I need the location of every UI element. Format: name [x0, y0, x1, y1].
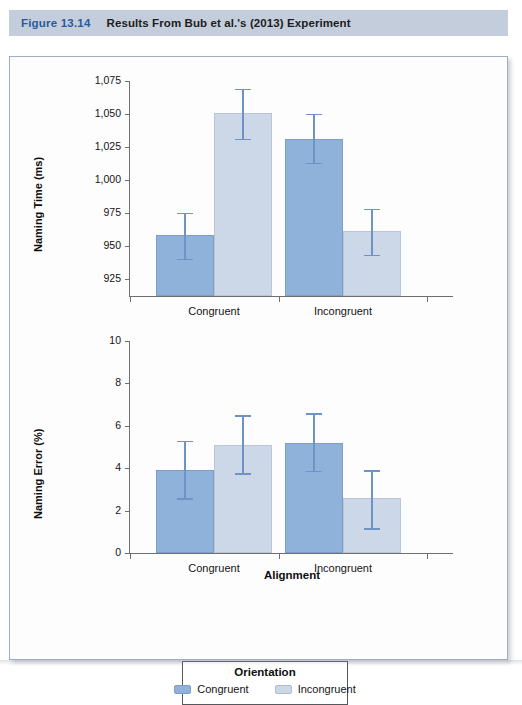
y-tick-label: 1,000: [65, 173, 121, 185]
error-cap-lower: [364, 528, 380, 530]
y-tick-label: 950: [65, 239, 121, 251]
y-axis-line-bottom: [129, 341, 130, 553]
y-tick-label: 1,075: [65, 74, 121, 86]
figure-header: Figure 13.14 Results From Bub et al.'s (…: [9, 10, 508, 36]
x-axis-line-bottom: [129, 553, 453, 554]
chart-naming-error: Naming Error (%) 0246810 CongruentIncong…: [10, 329, 509, 579]
figure-number: Figure 13.14: [21, 17, 91, 29]
error-cap-lower: [364, 255, 380, 257]
error-stem: [371, 209, 373, 256]
error-cap-lower: [177, 259, 193, 261]
error-bar-incongruent-incongruent: [364, 209, 380, 256]
legend-swatch-congruent: [174, 685, 191, 694]
x-tick-label-congruent: Congruent: [154, 305, 274, 317]
y-tick-label: 8: [65, 376, 121, 388]
x-tick-mark: [427, 297, 428, 302]
x-tick-mark: [130, 297, 131, 302]
error-cap-lower: [235, 139, 251, 141]
y-axis-title-naming-time: Naming Time (ms): [32, 157, 44, 252]
page-edge-shadow: [0, 660, 522, 665]
y-tick-label: 2: [65, 504, 121, 516]
error-bar-incongruent-congruent: [306, 413, 322, 472]
error-cap-lower: [306, 471, 322, 473]
y-axis-title-naming-error: Naming Error (%): [32, 429, 44, 519]
x-tick-mark: [279, 554, 280, 559]
legend-label-congruent: Congruent: [197, 683, 248, 695]
error-bar-congruent-congruent: [177, 441, 193, 500]
error-stem: [313, 114, 315, 164]
y-tick-label: 1,050: [65, 107, 121, 119]
error-bar-incongruent-incongruent: [364, 470, 380, 529]
legend-orientation: OrientationCongruentIncongruent: [182, 661, 348, 705]
chart-naming-time: Naming Time (ms) 9259509751,0001,0251,05…: [10, 57, 509, 317]
error-bar-congruent-incongruent: [235, 89, 251, 140]
error-stem: [313, 413, 315, 472]
legend-item-congruent: Congruent: [174, 683, 248, 695]
error-cap-lower: [306, 163, 322, 165]
x-tick-mark: [130, 554, 131, 559]
error-stem: [184, 213, 186, 260]
legend-label-incongruent: Incongruent: [298, 683, 356, 695]
error-stem: [242, 89, 244, 140]
x-axis-line-top: [129, 296, 453, 297]
error-stem: [242, 415, 244, 474]
legend-swatch-incongruent: [275, 685, 292, 694]
figure-title: Results From Bub et al.'s (2013) Experim…: [107, 17, 351, 29]
y-tick-label: 975: [65, 206, 121, 218]
error-bar-congruent-incongruent: [235, 415, 251, 474]
y-tick-label: 925: [65, 272, 121, 284]
error-bar-incongruent-congruent: [306, 114, 322, 164]
y-tick-label: 0: [65, 546, 121, 558]
error-stem: [184, 441, 186, 500]
figure-panel: Naming Time (ms) 9259509751,0001,0251,05…: [9, 56, 508, 660]
y-tick-label: 1,025: [65, 140, 121, 152]
error-stem: [371, 470, 373, 529]
x-tick-mark: [279, 297, 280, 302]
error-cap-lower: [177, 498, 193, 500]
x-axis-title-alignment: Alignment: [130, 569, 454, 581]
y-tick-label: 6: [65, 419, 121, 431]
legend-item-incongruent: Incongruent: [275, 683, 356, 695]
scan-caption-partial: [0, 674, 522, 683]
y-tick-label: 4: [65, 461, 121, 473]
y-axis-line-top: [129, 81, 130, 296]
x-tick-mark: [427, 554, 428, 559]
x-tick-label-incongruent: Incongruent: [283, 305, 403, 317]
error-bar-congruent-congruent: [177, 213, 193, 260]
error-cap-lower: [235, 473, 251, 475]
y-tick-label: 10: [65, 334, 121, 346]
